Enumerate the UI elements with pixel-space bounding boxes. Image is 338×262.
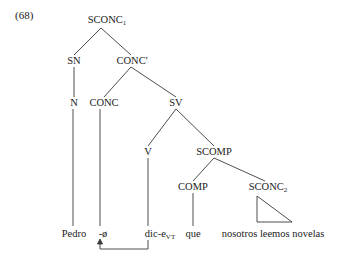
triangle-abbreviation xyxy=(257,196,292,222)
leaf-pedro: Pedro xyxy=(62,228,87,240)
node-sv: SV xyxy=(169,97,182,109)
node-v: V xyxy=(144,146,152,158)
leaf-clause: nosotros leemos novelas xyxy=(222,228,325,240)
tree-branches xyxy=(0,0,338,262)
node-comp: COMP xyxy=(178,181,208,193)
leaf-dice: dic-eVT xyxy=(145,228,175,243)
node-sn: SN xyxy=(67,55,80,67)
node-n: N xyxy=(70,97,78,109)
node-sconc2: SCONC2 xyxy=(249,181,288,196)
leaf-que: que xyxy=(185,228,200,240)
node-scomp: SCOMP xyxy=(196,146,232,158)
node-sconc1: SCONC1 xyxy=(88,14,127,29)
leaf-null-conc: -ø xyxy=(99,228,108,240)
node-conc: CONC xyxy=(89,97,118,109)
node-conc-bar: CONC' xyxy=(116,55,147,67)
movement-arrow xyxy=(100,240,148,249)
